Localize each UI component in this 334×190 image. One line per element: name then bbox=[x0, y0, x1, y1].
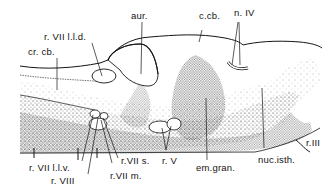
root-vii-lld bbox=[92, 69, 116, 83]
label-root-vii-llv: r. VII l.l.v. bbox=[29, 163, 70, 173]
label-auricle: aur. bbox=[131, 11, 148, 21]
label-cerebellar-commissure: c.cb. bbox=[199, 11, 220, 21]
label-root-vii-m: r.VII m. bbox=[110, 171, 142, 181]
label-root-v: r. V bbox=[162, 156, 177, 166]
label-crista-cerebellaris: cr. cb. bbox=[28, 47, 55, 57]
label-root-vii-s: r.VII s. bbox=[121, 156, 150, 166]
label-root-viii: r. VIII bbox=[51, 176, 75, 186]
label-eminentia-granularis: em.gran. bbox=[196, 163, 235, 173]
label-root-iii: r.III bbox=[306, 138, 320, 148]
label-nucleus-isthmi: nuc.isth. bbox=[258, 155, 295, 165]
label-nerve-iv: n. IV bbox=[234, 8, 255, 18]
label-root-vii-lld: r. VII l.l.d. bbox=[44, 32, 86, 42]
